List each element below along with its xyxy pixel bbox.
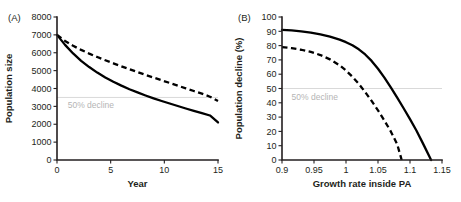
panel-b: (B)50% decline01020304050607080901000.90… bbox=[230, 0, 460, 202]
y-tick-label: 3000 bbox=[31, 102, 51, 112]
x-tick-label: 1.15 bbox=[433, 165, 451, 175]
x-tick-label: 1 bbox=[343, 165, 348, 175]
x-tick-label: 0 bbox=[54, 165, 59, 175]
figure-container: (A)50% decline01000200030004000500060007… bbox=[0, 0, 461, 202]
y-tick-label: 6000 bbox=[31, 48, 51, 58]
y-tick-label: 5000 bbox=[31, 66, 51, 76]
x-axis-title: Year bbox=[127, 178, 147, 189]
y-tick-label: 60 bbox=[266, 69, 276, 79]
x-tick-label: 0.95 bbox=[305, 165, 323, 175]
x-tick-label: 1.05 bbox=[369, 165, 387, 175]
x-tick-label: 1.1 bbox=[404, 165, 417, 175]
y-tick-label: 90 bbox=[266, 27, 276, 37]
y-tick-label: 10 bbox=[266, 141, 276, 151]
y-tick-label: 1000 bbox=[31, 137, 51, 147]
reference-line-annotation: 50% decline bbox=[68, 100, 115, 110]
y-axis-title: Population decline (%) bbox=[233, 38, 244, 140]
y-tick-label: 7000 bbox=[31, 30, 51, 40]
y-tick-label: 4000 bbox=[31, 84, 51, 94]
panel-label: (B) bbox=[238, 12, 251, 23]
panel-a: (A)50% decline01000200030004000500060007… bbox=[0, 0, 230, 202]
plot-axes bbox=[57, 17, 218, 160]
x-axis-title: Growth rate inside PA bbox=[313, 178, 412, 189]
y-tick-label: 70 bbox=[266, 55, 276, 65]
x-tick-label: 5 bbox=[108, 165, 113, 175]
y-tick-label: 2000 bbox=[31, 119, 51, 129]
y-tick-label: 80 bbox=[266, 41, 276, 51]
x-tick-label: 0.9 bbox=[276, 165, 289, 175]
y-tick-label: 0 bbox=[46, 155, 51, 165]
panel-label: (A) bbox=[8, 12, 21, 23]
y-tick-label: 50 bbox=[266, 84, 276, 94]
reference-line-annotation: 50% decline bbox=[292, 92, 339, 102]
data-curve-dashed bbox=[57, 35, 218, 101]
x-tick-label: 15 bbox=[213, 165, 223, 175]
y-tick-label: 30 bbox=[266, 112, 276, 122]
x-tick-label: 10 bbox=[159, 165, 169, 175]
panel-b-plot: (B)50% decline01020304050607080901000.90… bbox=[230, 0, 461, 202]
y-tick-label: 20 bbox=[266, 127, 276, 137]
y-tick-label: 40 bbox=[266, 98, 276, 108]
panel-a-plot: (A)50% decline01000200030004000500060007… bbox=[0, 0, 230, 202]
data-curve-dashed bbox=[282, 47, 402, 160]
y-tick-label: 100 bbox=[261, 12, 276, 22]
y-tick-label: 0 bbox=[271, 155, 276, 165]
y-axis-title: Population size bbox=[3, 54, 14, 124]
y-tick-label: 8000 bbox=[31, 12, 51, 22]
